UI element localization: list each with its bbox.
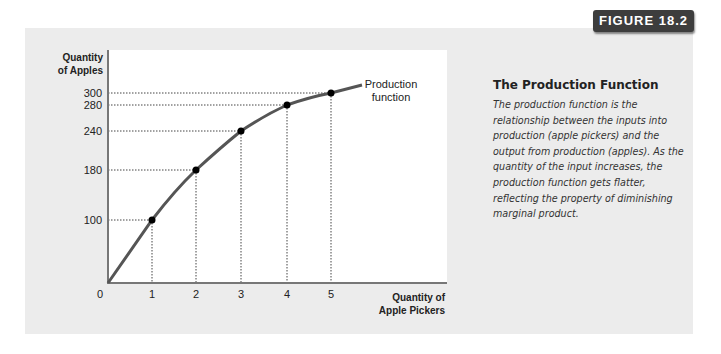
y-tick-240: 240 [84, 125, 102, 137]
curve-label-2: function [372, 91, 411, 103]
y-tick-300: 300 [84, 87, 102, 99]
caption-body: The production function is the relations… [493, 97, 693, 222]
y-axis-label-1: Quantity [62, 52, 103, 63]
x-tick-5: 5 [328, 288, 334, 300]
y-axis-label-2: of Apples [58, 65, 104, 76]
x-axis-label-1: Quantity of [392, 292, 445, 303]
caption-title: The Production Function [493, 78, 693, 92]
y-tick-100: 100 [84, 214, 102, 226]
x-tick-3: 3 [238, 288, 244, 300]
curve-label-1: Production [365, 78, 418, 90]
x-tick-2: 2 [193, 288, 199, 300]
figure-caption: The Production Function The production f… [493, 78, 693, 222]
y-tick-180: 180 [84, 164, 102, 176]
x-tick-4: 4 [284, 288, 290, 300]
x-tick-1: 1 [149, 288, 155, 300]
y-tick-280: 280 [84, 99, 102, 111]
x-axis-label-2: Apple Pickers [379, 305, 446, 316]
origin-label: 0 [97, 288, 103, 300]
